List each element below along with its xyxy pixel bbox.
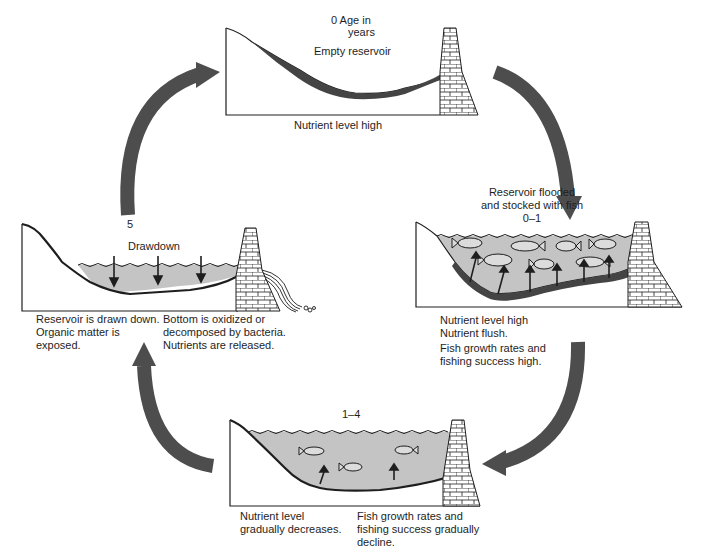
dam-wall <box>628 222 682 307</box>
caption-flooded: Nutrient level high Nutrient flush. Fish… <box>440 314 600 368</box>
panel-drawdown <box>22 224 316 312</box>
cycle-arrow-top-left <box>127 62 220 215</box>
caption-nutrient-level-high: Nutrient level high <box>294 119 382 132</box>
age-label-1-4: 1–4 <box>342 408 360 421</box>
caption-line: Nutrients are released. <box>163 339 303 352</box>
dam-wall <box>440 28 478 115</box>
caption-drawdown-right: Bottom is oxidized or decomposed by bact… <box>163 313 303 352</box>
panel-empty-reservoir <box>226 28 478 115</box>
panel-nutrient-decrease <box>230 420 480 506</box>
age-label-years: years <box>348 26 375 39</box>
cycle-arrow-bottom-left <box>132 342 213 466</box>
caption-line: Fish growth rates and <box>357 510 517 523</box>
caption-line: Fish growth rates and <box>440 342 600 355</box>
caption-line: decomposed by bacteria. <box>163 326 303 339</box>
stage-title-flooded-2: and stocked with fish <box>467 199 597 212</box>
age-label-5: 5 <box>127 218 133 231</box>
caption-fish-decline: Fish growth rates and fishing success gr… <box>357 510 517 549</box>
caption-line: Bottom is oxidized or <box>163 313 303 326</box>
panel-reservoir-flooded <box>416 222 682 307</box>
caption-line: fishing success high. <box>440 355 600 368</box>
caption-line: decline. <box>357 536 517 549</box>
caption-line: fishing success gradually <box>357 523 517 536</box>
reservoir-cycle-diagram <box>0 0 703 552</box>
caption-line: Organic matter is exposed. <box>36 326 166 352</box>
caption-line: Nutrient level high <box>440 314 600 327</box>
stage-title-drawdown: Drawdown <box>128 240 180 253</box>
terrain-profile <box>226 28 445 93</box>
caption-line: Nutrient flush. <box>440 327 600 340</box>
age-label-0-1: 0–1 <box>467 212 597 225</box>
stage-title-flooded-1: Reservoir flooded <box>467 186 597 199</box>
stage-title-empty-reservoir: Empty reservoir <box>314 45 391 58</box>
dam-wall <box>236 228 280 311</box>
caption-drawdown-left: Reservoir is drawn down. Organic matter … <box>36 313 166 352</box>
caption-line: Reservoir is drawn down. <box>36 313 166 326</box>
